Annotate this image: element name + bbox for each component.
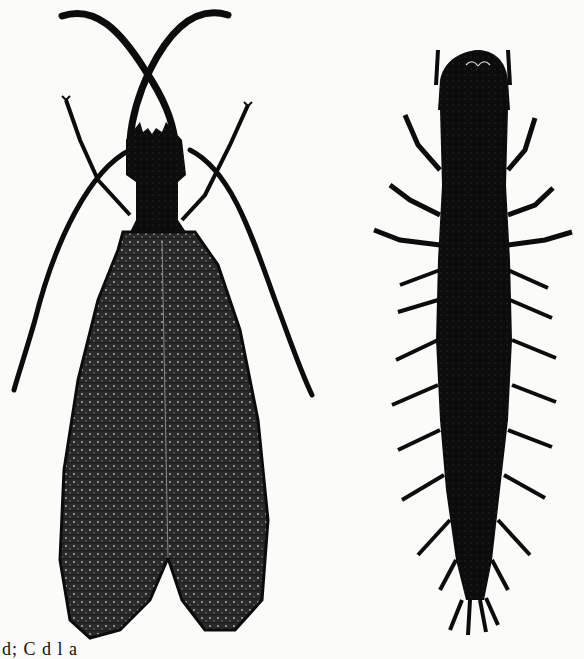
larva-body [436, 110, 512, 600]
larva-leg [405, 115, 440, 170]
left-antenna [62, 13, 175, 140]
wings [60, 232, 268, 638]
adult-dobsonfly [14, 13, 312, 638]
larva-head [438, 50, 510, 110]
larva-hellgrammite [374, 50, 572, 635]
right-antenna [130, 13, 228, 140]
head [126, 122, 186, 232]
figure-caption-fragment: d; C d l a [2, 640, 78, 658]
